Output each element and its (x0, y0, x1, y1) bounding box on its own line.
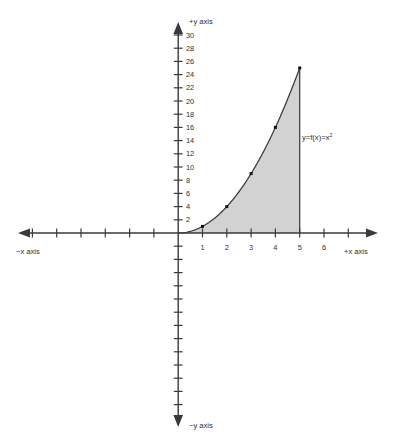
x-axis-left-arrow (18, 228, 30, 237)
y-tick-label-12: 12 (186, 149, 194, 158)
x-tick-label-2: 2 (225, 243, 229, 252)
y-axis-top-arrow (173, 22, 183, 34)
y-tick-label-22: 22 (186, 83, 194, 92)
function-annotation-label: y=f(x)=x2 (302, 132, 332, 142)
y-tick-label-16: 16 (186, 123, 194, 132)
data-point-5-25 (298, 67, 301, 70)
y-tick-label-8: 8 (186, 176, 190, 185)
y-tick-label-28: 28 (186, 44, 194, 53)
y-axis-negative-label: −y axis (189, 421, 213, 430)
data-point-1-1 (201, 225, 204, 228)
x-tick-label-1: 1 (200, 243, 204, 252)
x-tick-label-6: 6 (322, 243, 326, 252)
y-tick-label-4: 4 (186, 202, 190, 211)
cartesian-plane-chart: 1 2 3 4 5 6 (0, 0, 396, 448)
x-tick-label-3: 3 (249, 243, 253, 252)
data-point-2-4 (225, 205, 228, 208)
chart-svg: 1 2 3 4 5 6 (0, 0, 396, 448)
y-tick-label-30: 30 (186, 31, 194, 40)
y-tick-label-26: 26 (186, 57, 194, 66)
x-axis-negative-label: −x axis (16, 247, 40, 256)
data-point-3-9 (250, 172, 253, 175)
x-tick-label-5: 5 (298, 243, 302, 252)
y-axis-bottom-arrow (173, 415, 183, 427)
x-axis-positive-label: +x axis (344, 247, 368, 256)
y-tick-label-6: 6 (186, 189, 190, 198)
function-annotation-exponent: 2 (329, 132, 332, 138)
y-tick-label-2: 2 (186, 215, 190, 224)
y-tick-label-14: 14 (186, 136, 194, 145)
y-axis-positive-label: +y axis (189, 17, 213, 26)
y-tick-label-10: 10 (186, 163, 194, 172)
y-tick-label-24: 24 (186, 70, 194, 79)
data-point-4-16 (274, 126, 277, 129)
y-tick-label-20: 20 (186, 97, 194, 106)
x-axis-right-arrow (366, 228, 378, 237)
function-annotation-text: y=f(x)=x (302, 133, 330, 142)
shaded-area-under-curve (178, 68, 300, 233)
x-tick-label-4: 4 (273, 243, 277, 252)
y-tick-label-18: 18 (186, 110, 194, 119)
